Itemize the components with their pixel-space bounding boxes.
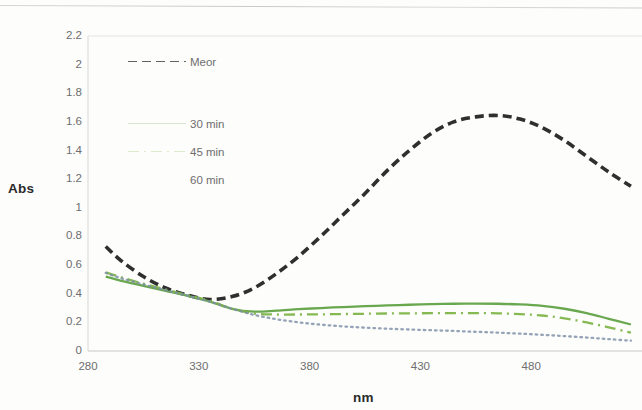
series-line-meor xyxy=(106,115,631,299)
chart-figure: Abs nm 2.221.81.61.41.210.80.60.40.20 28… xyxy=(0,0,642,410)
plot-canvas xyxy=(0,0,642,410)
series-line-45-min xyxy=(106,272,631,332)
series-line-30-min xyxy=(106,277,631,325)
